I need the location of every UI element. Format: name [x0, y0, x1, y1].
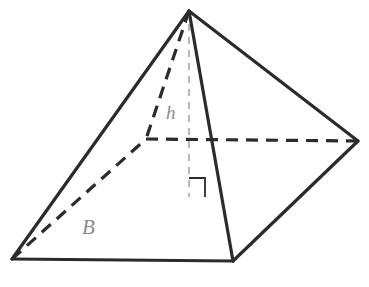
right-angle-marker-group — [189, 178, 205, 197]
base-edge-front-right-to-right — [233, 141, 358, 261]
solid-edges-group — [12, 11, 358, 261]
lateral-edge-apex-to-right — [189, 11, 358, 141]
base-area-label: B — [82, 217, 95, 238]
base-edge-front-left-to-front-right — [12, 259, 233, 261]
height-label: h — [166, 103, 176, 122]
hidden-edges-group — [12, 11, 358, 259]
hidden-base-edge-back-to-right — [146, 139, 358, 141]
right-angle-marker — [189, 178, 205, 197]
lateral-edge-apex-to-front-right — [189, 11, 233, 261]
pyramid-diagram-canvas — [0, 0, 369, 287]
pyramid-figure: h B — [0, 0, 369, 287]
lateral-edge-apex-to-front-left — [12, 11, 189, 259]
hidden-base-edge-front-left-to-back — [12, 139, 146, 259]
